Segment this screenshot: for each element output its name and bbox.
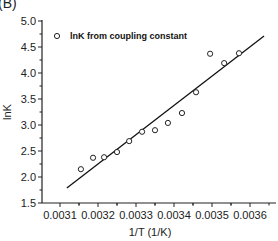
legend-marker-icon bbox=[54, 33, 59, 38]
data-point bbox=[139, 129, 144, 134]
y-tick-label: 2.0 bbox=[21, 171, 36, 183]
data-point bbox=[78, 167, 83, 172]
x-tick-label: 0.0036 bbox=[233, 209, 267, 221]
y-tick-label: 5.0 bbox=[21, 15, 36, 27]
data-point bbox=[236, 51, 241, 56]
scatter-chart: (B) 1.52.02.53.03.54.04.55.00.00310.0032… bbox=[0, 0, 278, 241]
data-point bbox=[165, 120, 170, 125]
y-axis-title: lnK bbox=[1, 103, 13, 120]
x-tick-label: 0.0034 bbox=[157, 209, 191, 221]
axes: 1.52.02.53.03.54.04.55.00.00310.00320.00… bbox=[21, 15, 276, 221]
data-point bbox=[127, 139, 132, 144]
legend: lnK from coupling constant bbox=[54, 31, 187, 41]
y-tick-label: 4.5 bbox=[21, 41, 36, 53]
data-point bbox=[193, 90, 198, 95]
data-point bbox=[222, 61, 227, 66]
y-tick-label: 3.0 bbox=[21, 119, 36, 131]
y-tick-label: 3.5 bbox=[21, 93, 36, 105]
fit-line bbox=[67, 36, 264, 188]
x-tick-label: 0.0032 bbox=[81, 209, 115, 221]
data-point bbox=[208, 51, 213, 56]
data-points bbox=[78, 51, 241, 172]
x-tick-label: 0.0033 bbox=[119, 209, 153, 221]
legend-label: lnK from coupling constant bbox=[70, 31, 187, 41]
data-point bbox=[101, 155, 106, 160]
y-tick-label: 4.0 bbox=[21, 67, 36, 79]
y-tick-label: 1.5 bbox=[21, 197, 36, 209]
data-point bbox=[152, 128, 157, 133]
linear-fit-line bbox=[67, 36, 264, 188]
data-point bbox=[179, 110, 184, 115]
x-axis-title: 1/T (1/K) bbox=[129, 226, 172, 238]
x-tick-label: 0.0035 bbox=[195, 209, 229, 221]
y-tick-label: 2.5 bbox=[21, 145, 36, 157]
x-tick-label: 0.0031 bbox=[43, 209, 77, 221]
data-point bbox=[90, 155, 95, 160]
panel-label: (B) bbox=[0, 0, 17, 11]
data-point bbox=[114, 149, 119, 154]
